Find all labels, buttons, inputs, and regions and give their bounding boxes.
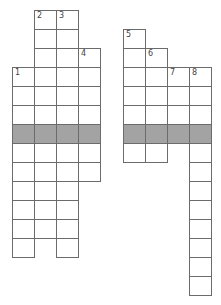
clue-number: 2 [37, 11, 42, 21]
clue-number: 5 [126, 30, 131, 40]
grid-cell-c-12[interactable] [56, 238, 79, 258]
grid-cell-e-4[interactable] [123, 86, 146, 106]
grid-cell-h-10[interactable] [189, 200, 212, 220]
grid-cell-c-3[interactable] [56, 67, 79, 87]
grid-cell-a-8[interactable] [12, 162, 35, 182]
grid-cell-c-9[interactable] [56, 181, 79, 201]
grid-cell-h-3[interactable]: 8 [189, 67, 212, 87]
grid-cell-a-3[interactable]: 1 [12, 67, 35, 87]
grid-cell-b-8[interactable] [34, 162, 57, 182]
grid-cell-e-6 [123, 124, 146, 144]
grid-cell-g-5[interactable] [167, 105, 190, 125]
grid-cell-g-3[interactable]: 7 [167, 67, 190, 87]
grid-cell-d-6 [78, 124, 101, 144]
grid-cell-a-5[interactable] [12, 105, 35, 125]
grid-cell-a-9[interactable] [12, 181, 35, 201]
grid-cell-d-2[interactable]: 4 [78, 48, 101, 68]
grid-cell-b-3[interactable] [34, 67, 57, 87]
crossword-grid: 12345678 [0, 0, 221, 305]
grid-cell-a-12[interactable] [12, 238, 35, 258]
grid-cell-f-3[interactable] [145, 67, 168, 87]
grid-cell-b-9[interactable] [34, 181, 57, 201]
grid-cell-a-11[interactable] [12, 219, 35, 239]
grid-cell-h-14[interactable] [189, 276, 212, 296]
grid-cell-f-2[interactable]: 6 [145, 48, 168, 68]
grid-cell-a-4[interactable] [12, 86, 35, 106]
grid-cell-h-11[interactable] [189, 219, 212, 239]
grid-cell-c-4[interactable] [56, 86, 79, 106]
grid-cell-h-6 [189, 124, 212, 144]
grid-cell-b-6 [34, 124, 57, 144]
grid-cell-h-5[interactable] [189, 105, 212, 125]
grid-cell-b-0[interactable]: 2 [34, 10, 57, 30]
grid-cell-f-6 [145, 124, 168, 144]
grid-cell-c-10[interactable] [56, 200, 79, 220]
grid-cell-c-6 [56, 124, 79, 144]
grid-cell-e-3[interactable] [123, 67, 146, 87]
grid-cell-b-2[interactable] [34, 48, 57, 68]
grid-cell-d-4[interactable] [78, 86, 101, 106]
grid-cell-a-10[interactable] [12, 200, 35, 220]
grid-cell-g-6 [167, 124, 190, 144]
grid-cell-f-7[interactable] [145, 143, 168, 163]
grid-cell-b-7[interactable] [34, 143, 57, 163]
grid-cell-c-7[interactable] [56, 143, 79, 163]
grid-cell-a-7[interactable] [12, 143, 35, 163]
grid-cell-c-11[interactable] [56, 219, 79, 239]
grid-cell-b-1[interactable] [34, 29, 57, 49]
grid-cell-h-7[interactable] [189, 143, 212, 163]
grid-cell-h-8[interactable] [189, 162, 212, 182]
grid-cell-c-2[interactable] [56, 48, 79, 68]
grid-cell-b-5[interactable] [34, 105, 57, 125]
clue-number: 8 [192, 68, 197, 78]
grid-cell-c-0[interactable]: 3 [56, 10, 79, 30]
grid-cell-f-5[interactable] [145, 105, 168, 125]
grid-cell-g-4[interactable] [167, 86, 190, 106]
grid-cell-b-11[interactable] [34, 219, 57, 239]
grid-cell-h-4[interactable] [189, 86, 212, 106]
grid-cell-b-4[interactable] [34, 86, 57, 106]
grid-cell-e-1[interactable]: 5 [123, 29, 146, 49]
grid-cell-d-3[interactable] [78, 67, 101, 87]
grid-cell-f-4[interactable] [145, 86, 168, 106]
grid-cell-h-12[interactable] [189, 238, 212, 258]
grid-cell-e-5[interactable] [123, 105, 146, 125]
grid-cell-b-10[interactable] [34, 200, 57, 220]
grid-cell-e-2[interactable] [123, 48, 146, 68]
clue-number: 1 [15, 68, 20, 78]
grid-cell-c-8[interactable] [56, 162, 79, 182]
clue-number: 4 [81, 49, 86, 59]
grid-cell-h-9[interactable] [189, 181, 212, 201]
clue-number: 7 [170, 68, 175, 78]
clue-number: 3 [59, 11, 64, 21]
grid-cell-a-6 [12, 124, 35, 144]
grid-cell-e-7[interactable] [123, 143, 146, 163]
grid-cell-h-13[interactable] [189, 257, 212, 277]
grid-cell-d-5[interactable] [78, 105, 101, 125]
grid-cell-d-8[interactable] [78, 162, 101, 182]
grid-cell-c-1[interactable] [56, 29, 79, 49]
grid-cell-d-7[interactable] [78, 143, 101, 163]
clue-number: 6 [148, 49, 153, 59]
grid-cell-c-5[interactable] [56, 105, 79, 125]
